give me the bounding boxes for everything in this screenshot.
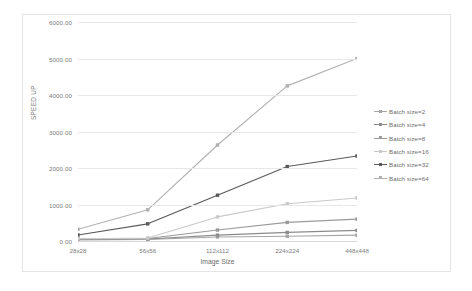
data-point-marker: [216, 143, 219, 146]
x-axis-tick-label: 112x112: [206, 247, 229, 254]
legend-line-icon: [374, 161, 387, 168]
y-axis-tick-label: 1000.00: [49, 201, 72, 208]
series-batch-size-32: [78, 154, 357, 236]
x-axis-title: Image Size: [78, 258, 357, 265]
data-point-marker: [146, 236, 149, 239]
gridline: [78, 59, 357, 60]
y-axis-title: SPEED UP: [30, 85, 37, 120]
x-axis-line: [78, 241, 357, 242]
y-axis-tick-label: 6000.00: [49, 19, 72, 26]
x-axis-tick-label: 448x448: [345, 247, 369, 254]
y-axis-tick-label: 2000.00: [49, 165, 72, 172]
data-point-marker: [146, 222, 149, 225]
data-point-marker: [78, 228, 80, 231]
legend-item-label: Batch size=64: [389, 175, 429, 182]
legend-item[interactable]: Batch size=64: [374, 171, 469, 184]
data-point-marker: [78, 237, 80, 240]
legend-item[interactable]: Batch size=32: [374, 158, 469, 171]
data-point-marker: [216, 215, 219, 218]
legend-item-label: Batch size=2: [389, 108, 425, 115]
gridline: [78, 22, 357, 23]
legend-item-label: Batch size=32: [389, 161, 429, 168]
data-point-marker: [355, 154, 357, 157]
legend-line-icon: [374, 108, 387, 115]
gridline: [78, 132, 357, 133]
gridline: [78, 168, 357, 169]
legend-item[interactable]: Batch size=4: [374, 118, 469, 131]
data-point-marker: [355, 233, 357, 236]
data-point-marker: [355, 196, 357, 199]
legend-item-label: Batch size=16: [389, 148, 429, 155]
legend-item[interactable]: Batch size=2: [374, 105, 469, 118]
x-axis-tick-label: 224x224: [275, 247, 299, 254]
legend-item[interactable]: Batch size=16: [374, 145, 469, 158]
legend-line-icon: [374, 121, 387, 128]
chart-legend: Batch size=2Batch size=4Batch size=8Batc…: [374, 105, 469, 185]
legend-line-icon: [374, 148, 387, 155]
y-axis-tick-label: 0.00: [60, 238, 72, 245]
line-chart: SPEED UP 0.001000.002000.003000.004000.0…: [0, 0, 472, 291]
data-point-marker: [286, 235, 289, 238]
gridline: [78, 95, 357, 96]
legend-line-icon: [374, 135, 387, 142]
data-point-marker: [216, 233, 219, 236]
data-point-marker: [146, 208, 149, 211]
legend-item-label: Batch size=4: [389, 121, 425, 128]
data-point-marker: [355, 217, 357, 220]
x-axis-tick-label: 56x56: [139, 247, 156, 254]
data-point-marker: [286, 231, 289, 234]
y-axis-tick-label: 3000.00: [49, 128, 72, 135]
data-point-marker: [355, 229, 357, 232]
data-point-marker: [286, 221, 289, 224]
data-point-marker: [78, 233, 80, 236]
y-axis-tick-label: 5000.00: [49, 55, 72, 62]
x-axis-tick-label: 28x28: [70, 247, 87, 254]
data-point-marker: [286, 84, 289, 87]
legend-line-icon: [374, 175, 387, 182]
legend-item-label: Batch size=8: [389, 135, 425, 142]
data-point-marker: [216, 193, 219, 196]
gridline: [78, 205, 357, 206]
y-axis-tick-label: 4000.00: [49, 92, 72, 99]
legend-item[interactable]: Batch size=8: [374, 132, 469, 145]
data-point-marker: [216, 228, 219, 231]
plot-area: 0.001000.002000.003000.004000.005000.006…: [78, 22, 357, 241]
